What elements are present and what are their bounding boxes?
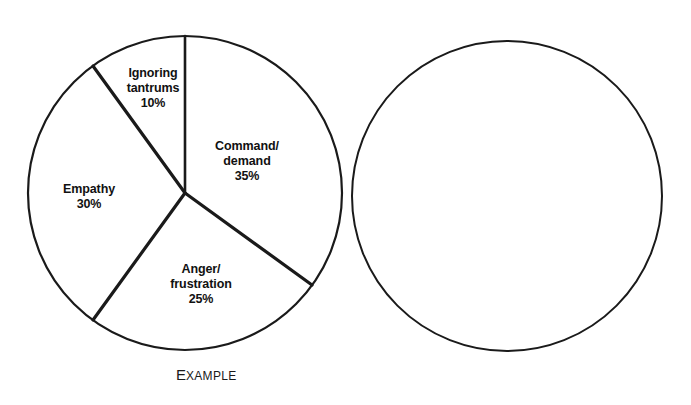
slice-label-command-demand-line1: Command/ xyxy=(215,139,279,153)
pie-chart-worksheet: Command/ demand 35% Anger/ frustration 2… xyxy=(0,0,691,405)
slice-percent-anger-frustration: 25% xyxy=(170,292,231,307)
slice-label-command-demand: Command/ demand 35% xyxy=(215,139,279,184)
example-caption: EXAMPLE xyxy=(176,366,237,384)
slice-label-anger-frustration: Anger/ frustration 25% xyxy=(170,262,231,307)
slice-label-empathy: Empathy 30% xyxy=(63,182,115,212)
slice-label-command-demand-line2: demand xyxy=(223,154,270,168)
slice-label-ignoring-tantrums-line1: Ignoring xyxy=(128,66,177,80)
slice-label-anger-frustration-line2: frustration xyxy=(170,277,231,291)
slice-label-empathy-line1: Empathy xyxy=(63,182,115,196)
slice-label-anger-frustration-line1: Anger/ xyxy=(182,262,221,276)
blank-practice-circle-outline xyxy=(352,41,662,351)
slice-percent-empathy: 30% xyxy=(63,197,115,212)
slice-label-ignoring-tantrums-line2: tantrums xyxy=(127,81,180,95)
slice-percent-command-demand: 35% xyxy=(215,169,279,184)
example-caption-first-letter: E xyxy=(176,366,186,383)
slice-percent-ignoring-tantrums: 10% xyxy=(127,96,180,111)
slice-label-ignoring-tantrums: Ignoring tantrums 10% xyxy=(127,66,180,111)
example-caption-rest: XAMPLE xyxy=(186,369,237,383)
